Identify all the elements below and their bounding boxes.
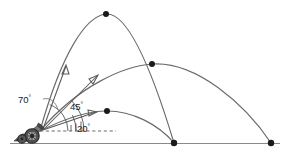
cannon-wheel-rear-hub (21, 138, 24, 141)
angle-label-20: 20° (77, 123, 91, 135)
marker-dot-apex-20 (104, 108, 110, 114)
angle-label-70: 70° (18, 94, 32, 106)
diagram-canvas: 70° 45° 20° (0, 0, 284, 159)
launch-ray-70 (43, 66, 66, 129)
angle-label-45: 45° (70, 101, 84, 113)
angle-label-70-degree: ° (29, 94, 32, 101)
cannon-launcher-icon (14, 123, 44, 143)
marker-dot-apex-70 (103, 11, 109, 17)
marker-dot-landing-near (171, 140, 177, 146)
marker-dot-apex-45 (149, 61, 155, 67)
angle-label-45-value: 45 (70, 101, 81, 112)
trajectory-path-20 (40, 111, 174, 143)
angle-label-45-degree: ° (81, 101, 84, 108)
projectile-diagram: 70° 45° 20° (0, 0, 284, 159)
cannon-wheel-hub (30, 134, 34, 138)
angle-label-20-degree: ° (88, 123, 91, 130)
angle-label-70-value: 70 (18, 94, 29, 105)
arrowhead-70-icon (62, 65, 69, 74)
angle-label-20-value: 20 (77, 123, 88, 134)
marker-dot-landing-far (268, 140, 274, 146)
